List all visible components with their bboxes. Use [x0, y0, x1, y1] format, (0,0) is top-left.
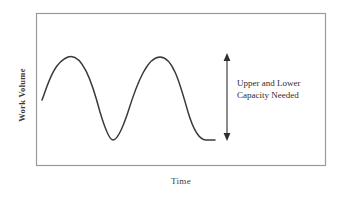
- y-axis-label: Work Volume: [17, 68, 27, 122]
- x-axis-label: Time: [171, 176, 191, 186]
- capacity-range-arrow: [224, 53, 231, 141]
- arrow-head-down: [224, 133, 231, 141]
- work-volume-curve: [42, 56, 215, 140]
- annotation-line-1: Upper and Lower: [237, 78, 333, 90]
- annotation-line-2: Capacity Needed: [237, 90, 333, 102]
- chart-figure: Work Volume Time Upper and Lower Capacit…: [0, 0, 346, 199]
- capacity-annotation: Upper and Lower Capacity Needed: [237, 78, 333, 101]
- arrow-head-up: [224, 53, 231, 61]
